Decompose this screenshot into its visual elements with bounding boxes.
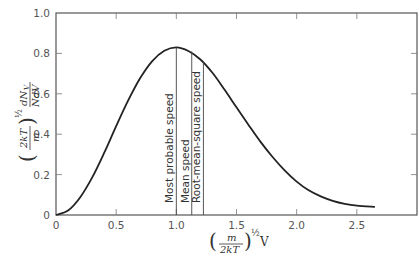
x-axis-label: ( m 2kT ) ½ V [209,228,269,255]
distribution-curve [56,47,375,215]
y-tick-label: 0.8 [33,47,50,59]
plot-frame [56,13,417,215]
svg-text:m: m [30,133,41,142]
svg-text:NdV: NdV [30,83,41,108]
speed-annotations: Most probable speedMean speedRoot-mean-s… [163,47,203,215]
x-tick-label: 1.0 [168,219,185,231]
svg-text:2kT: 2kT [219,244,240,255]
svg-text:½: ½ [251,228,260,238]
plot-border [56,13,417,215]
svg-text:(: ( [209,229,217,253]
x-tick-label: 2.5 [348,219,365,231]
svg-text:2kT: 2kT [18,128,29,149]
svg-text:(: ( [15,154,39,162]
annotation-label: Root-mean-square speed [190,71,202,203]
x-tick-label: 0 [53,219,60,231]
x-tick-label: 2.0 [288,219,305,231]
svg-text:V: V [259,235,269,249]
x-tick-label: 1.5 [228,219,245,231]
y-axis-label: ( 2kT m ) ½ dN V NdV [14,82,41,162]
y-tick-label: 0.2 [33,169,50,181]
svg-text:m: m [227,232,236,243]
axis-ticks: 00.51.01.52.02.500.20.40.60.81.0 [33,7,417,231]
series-line [56,47,375,215]
chart: 00.51.01.52.02.500.20.40.60.81.0 Most pr… [0,0,419,257]
y-tick-label: 1.0 [33,7,50,19]
annotation-label: Most probable speed [163,93,175,203]
svg-text:dN: dN [18,90,29,106]
svg-text:½: ½ [14,109,24,118]
x-tick-label: 0.5 [108,219,125,231]
y-tick-label: 0 [43,209,50,221]
annotation-label: Mean speed [179,139,191,203]
